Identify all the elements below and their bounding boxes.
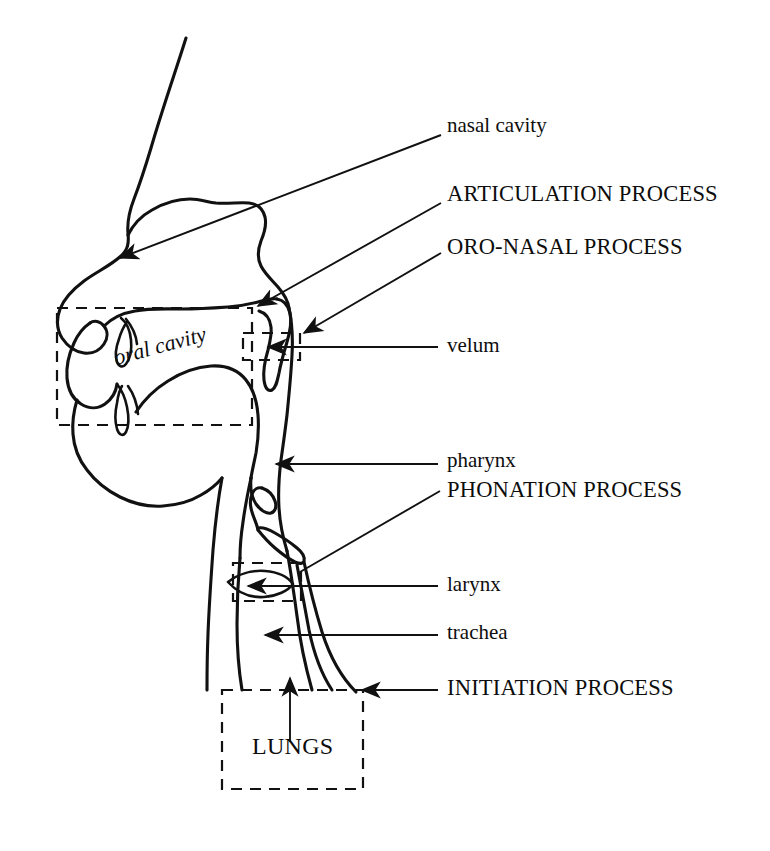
head-profile-outline: [58, 38, 186, 353]
label-pharynx: pharynx: [447, 448, 516, 472]
label-lungs: LUNGS: [252, 733, 334, 759]
label-oro-nasal-process: ORO-NASAL PROCESS: [447, 234, 683, 259]
label-larynx: larynx: [447, 572, 501, 596]
leader-articulation-process: [258, 203, 441, 306]
leader-oro-nasal-process: [304, 253, 441, 333]
vocal-tract-illustration: nasal cavity ARTICULATION PROCESS ORO-NA…: [0, 0, 770, 851]
label-articulation-process: ARTICULATION PROCESS: [447, 181, 718, 206]
leader-nasal-cavity: [120, 135, 441, 258]
lower-teeth-outline: [116, 384, 139, 435]
label-velum: velum: [447, 333, 500, 357]
label-trachea: trachea: [447, 620, 508, 644]
label-phonation-process: PHONATION PROCESS: [447, 477, 682, 502]
vocal-tract-diagram: nasal cavity ARTICULATION PROCESS ORO-NA…: [0, 0, 770, 851]
leader-phonation-process: [300, 491, 440, 572]
label-initiation-process: INITIATION PROCESS: [447, 675, 674, 700]
label-oral-cavity: oral cavity: [111, 321, 209, 370]
label-nasal-cavity: nasal cavity: [447, 113, 547, 137]
